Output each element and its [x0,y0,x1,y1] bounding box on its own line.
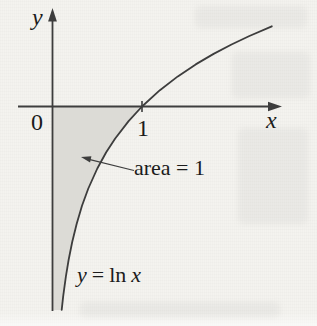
equation-arg: x [131,262,141,287]
x-tick-label: 1 [137,116,149,140]
origin-label: 0 [31,110,43,134]
y-axis-label: y [32,5,43,29]
ln-curve-figure: y x 0 1 area = 1 y=lnx [0,0,317,326]
equation-lhs: y [77,262,87,287]
area-annotation: area = 1 [134,157,205,179]
equation-fn: ln [109,262,126,287]
y-axis-arrowhead-icon [48,8,57,22]
equation-label: y=lnx [77,264,141,286]
equation-equals: = [92,262,104,287]
x-axis-label: x [266,108,277,132]
